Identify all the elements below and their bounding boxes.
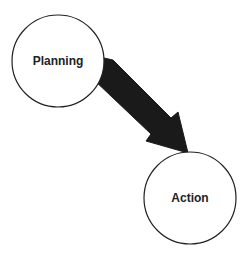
- node-planning: Planning: [12, 15, 104, 107]
- node-action-label: Action: [171, 191, 208, 205]
- diagram-canvas: Planning Action: [0, 0, 248, 255]
- arrow-planning-to-action: [92, 58, 188, 153]
- node-planning-label: Planning: [33, 54, 84, 68]
- node-action: Action: [144, 152, 236, 244]
